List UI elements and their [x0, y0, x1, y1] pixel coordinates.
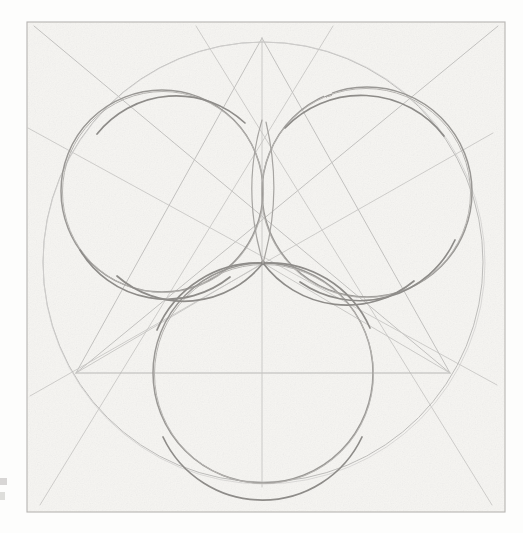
- drawing-sheet: [0, 0, 523, 533]
- geometric-figure: [0, 0, 523, 533]
- page-edge-artifact-upper: [0, 478, 7, 485]
- page-edge-artifact-lower: [0, 492, 5, 500]
